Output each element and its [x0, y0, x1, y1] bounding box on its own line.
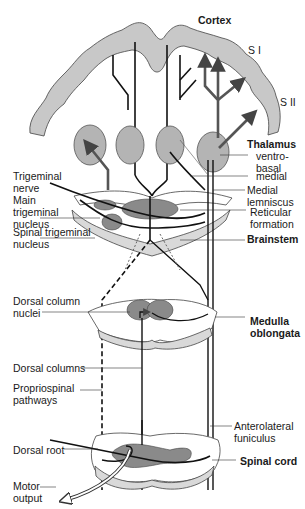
label-s1: S I [248, 44, 261, 56]
label-alf-line1: Anterolateral [234, 420, 294, 432]
label-trigeminal-line2: nerve [13, 182, 62, 194]
label-spinal-trigeminal-nucleus: Spinal trigeminal nucleus [13, 226, 91, 250]
label-main-trig-line2: trigeminal [13, 206, 59, 218]
cortex [30, 23, 280, 136]
thalamus-nuclei [74, 125, 229, 172]
label-thalamus: Thalamus [247, 138, 296, 150]
thalamocortical-projections [88, 60, 252, 190]
label-dcn-line2: nuclei [13, 307, 80, 319]
label-anterolateral-funiculus: Anterolateral funiculus [234, 420, 294, 444]
label-s2: S II [280, 96, 296, 108]
label-reticular-line2: formation [250, 218, 294, 230]
label-trigeminal-line1: Trigeminal [13, 170, 62, 182]
label-reticular-line1: Reticular [250, 206, 294, 218]
label-medulla-oblongata: Medulla oblongata [250, 315, 300, 339]
spinal-cord [50, 420, 220, 500]
label-reticular-formation: Reticular formation [250, 206, 294, 230]
label-medial-lemniscus-line1: Medial [247, 184, 294, 196]
label-propriospinal-line1: Propriospinal [13, 382, 74, 394]
label-trigeminal-nerve: Trigeminal nerve [13, 170, 62, 194]
label-medial-lemniscus: Medial lemniscus [247, 184, 294, 208]
label-main-trigeminal-nucleus: Main trigeminal nucleus [13, 194, 59, 230]
label-spinal-cord: Spinal cord [240, 455, 297, 467]
label-brainstem: Brainstem [247, 233, 298, 245]
label-medial: medial [256, 170, 287, 182]
label-dorsal-root: Dorsal root [13, 444, 64, 456]
label-ventrobasal-line1: ventro- [256, 150, 289, 162]
label-medulla-line2: oblongata [250, 327, 300, 339]
label-main-trig-line1: Main [13, 194, 59, 206]
label-motor-line2: output [13, 492, 42, 504]
label-motor-line1: Motor [13, 480, 42, 492]
label-dorsal-columns: Dorsal columns [13, 362, 85, 374]
label-cortex: Cortex [198, 14, 231, 26]
label-propriospinal-line2: pathways [13, 394, 74, 406]
label-medulla-line1: Medulla [250, 315, 300, 327]
label-spinal-trig-line2: nucleus [13, 238, 91, 250]
label-motor-output: Motor output [13, 480, 42, 504]
label-propriospinal-pathways: Propriospinal pathways [13, 382, 74, 406]
label-spinal-trig-line1: Spinal trigeminal [13, 226, 91, 238]
label-dorsal-column-nuclei: Dorsal column nuclei [13, 295, 80, 319]
label-alf-line2: funiculus [234, 432, 294, 444]
label-dcn-line1: Dorsal column [13, 295, 80, 307]
